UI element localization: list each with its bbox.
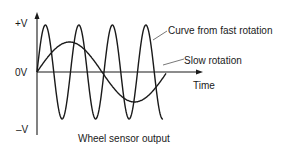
x-axis-label: Time: [193, 81, 215, 91]
fast-curve-annotation: Curve from fast rotation: [168, 26, 272, 36]
slow-curve-annotation: Slow rotation: [184, 56, 242, 66]
fast-leader-line: [153, 31, 167, 40]
waveform-plot: [0, 0, 289, 154]
slow-leader-line: [163, 59, 184, 65]
wheel-sensor-diagram: +V 0V –V Time Curve from fast rotation S…: [0, 0, 289, 154]
y-max-label: +V: [15, 19, 28, 29]
y-zero-label: 0V: [15, 68, 27, 78]
caption: Wheel sensor output: [78, 134, 170, 144]
y-min-label: –V: [16, 125, 28, 135]
y-axis-arrow-icon: [35, 12, 40, 19]
x-axis-arrow-icon: [196, 70, 203, 75]
